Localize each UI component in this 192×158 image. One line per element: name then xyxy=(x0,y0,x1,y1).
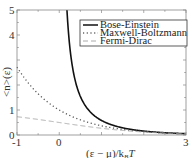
x-axis-label-tail: T xyxy=(128,147,135,158)
curve-fermi-dirac xyxy=(17,117,186,134)
curve-maxwell-boltzmann xyxy=(17,67,186,134)
y-tick-1: 1 xyxy=(9,104,15,116)
x-tick-3: 3 xyxy=(183,136,189,148)
legend-label-fermi-dirac: Fermi-Dirac xyxy=(100,35,152,46)
distribution-chart: 0 1 4 5 -1 0 3 <n>(ε) (ε − μ)/kBT Bose-E… xyxy=(0,0,192,158)
x-tick-0: 0 xyxy=(56,136,62,148)
y-axis-label: <n>(ε) xyxy=(0,67,13,97)
legend: Bose-Einstein Maxwell-Boltzmann Fermi-Di… xyxy=(80,19,188,46)
y-tick-5: 5 xyxy=(9,4,15,16)
x-axis-label: (ε − μ)/kBT xyxy=(86,147,135,158)
y-tick-4: 4 xyxy=(9,29,15,41)
x-axis-label-main: (ε − μ)/k xyxy=(86,147,125,158)
x-tick-neg1: -1 xyxy=(12,136,21,148)
